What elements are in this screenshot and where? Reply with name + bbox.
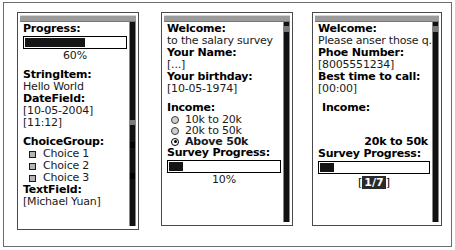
vertical-scrollbar[interactable] xyxy=(129,22,136,226)
device-screen: Welcome: to the salary survey Your Name:… xyxy=(164,22,283,223)
pager: [1/7] xyxy=(318,176,430,189)
pager-close-bracket: ] xyxy=(386,176,390,189)
birthday-field-value[interactable]: [10-05-1974] xyxy=(167,83,281,95)
survey-progress-gauge-fill xyxy=(169,162,183,171)
device-titlebar xyxy=(20,15,136,22)
scrollbar-mark xyxy=(130,142,135,148)
device-panel-survey-page-2: Welcome: Please anser those q... Phoe Nu… xyxy=(312,12,442,226)
device-panel-survey-page-1: Welcome: to the salary survey Your Name:… xyxy=(161,12,293,226)
survey-progress-gauge xyxy=(318,161,430,174)
device-titlebar xyxy=(164,15,290,22)
progress-gauge xyxy=(23,36,127,49)
survey-progress-percent-text: 10% xyxy=(167,174,281,186)
scrollbar-thumb[interactable] xyxy=(130,120,135,125)
progress-label: Progress: xyxy=(23,23,127,35)
device-titlebar xyxy=(315,15,439,22)
radio-icon[interactable] xyxy=(171,116,179,124)
screenshot-root: Progress: 60% StringItem: Hello World Da… xyxy=(0,0,455,250)
checkbox-icon[interactable] xyxy=(29,151,36,158)
pager-page-indicator[interactable]: 1/7 xyxy=(362,176,385,189)
checkbox-icon[interactable] xyxy=(29,163,36,170)
survey-progress-gauge-fill xyxy=(320,163,334,172)
text-field-value[interactable]: [Michael Yuan] xyxy=(23,196,127,208)
checkbox-icon[interactable] xyxy=(29,175,36,182)
best-time-field-value[interactable]: [00:00] xyxy=(318,83,430,95)
radio-icon[interactable] xyxy=(171,127,179,135)
vertical-scrollbar[interactable] xyxy=(283,22,290,222)
device-panel-form-widgets: Progress: 60% StringItem: Hello World Da… xyxy=(17,12,139,230)
date-field-time-value[interactable]: [11:12] xyxy=(23,117,127,129)
scrollbar-thumb[interactable] xyxy=(433,26,438,32)
device-screen: Welcome: Please anser those q... Phoe Nu… xyxy=(315,22,432,223)
vertical-scrollbar[interactable] xyxy=(432,22,439,222)
progress-gauge-fill xyxy=(25,38,85,47)
survey-progress-gauge xyxy=(167,160,281,173)
scrollbar-thumb[interactable] xyxy=(284,26,289,32)
scrollbar-mark xyxy=(130,173,135,179)
survey-progress-label: Survey Progress: xyxy=(318,148,430,160)
progress-percent-text: 60% xyxy=(23,50,127,62)
survey-progress-label: Survey Progress: xyxy=(167,147,281,159)
radio-selected-icon[interactable] xyxy=(171,138,179,146)
device-screen: Progress: 60% StringItem: Hello World Da… xyxy=(20,22,129,227)
income-label: Income: xyxy=(322,102,430,114)
